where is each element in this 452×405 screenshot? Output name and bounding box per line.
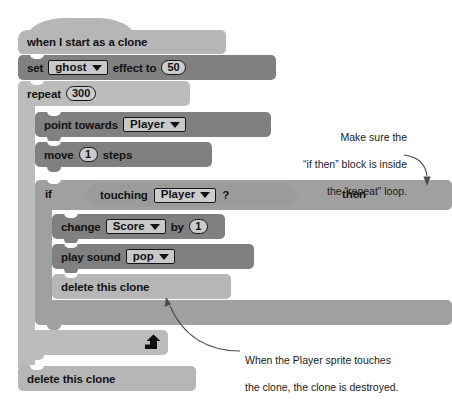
block-if-then-bottom[interactable] <box>35 300 452 325</box>
touching-target-dropdown[interactable]: Player <box>154 188 217 203</box>
play-sound-label: play sound <box>61 251 121 263</box>
block-notch <box>64 213 78 218</box>
chevron-down-icon <box>170 122 180 128</box>
block-bump <box>30 355 44 360</box>
block-set-effect[interactable]: set ghost effect to 50 <box>18 55 276 80</box>
point-towards-target-value: Player <box>130 119 165 131</box>
effect-dropdown[interactable]: ghost <box>48 60 107 75</box>
question-mark-label: ? <box>222 189 229 201</box>
block-notch <box>47 179 61 184</box>
chevron-down-icon <box>159 254 169 260</box>
block-notch <box>47 111 61 116</box>
touching-target-value: Player <box>161 189 196 201</box>
point-towards-target-dropdown[interactable]: Player <box>123 117 186 132</box>
by-label: by <box>171 221 184 233</box>
variable-dropdown-value: Score <box>113 221 145 233</box>
block-point-towards[interactable]: point towards Player <box>35 112 271 137</box>
point-towards-label: point towards <box>44 119 118 131</box>
block-notch <box>64 273 78 278</box>
annotation-line: “if then” block is inside <box>272 158 407 172</box>
block-bump <box>47 167 61 172</box>
repeat-count-field[interactable]: 300 <box>66 86 96 101</box>
change-amount-field[interactable]: 1 <box>189 219 208 234</box>
effect-to-label: effect to <box>113 62 157 74</box>
block-delete-this-clone-inner[interactable]: delete this clone <box>52 274 231 299</box>
block-notch <box>30 54 44 59</box>
change-amount-value: 1 <box>195 221 201 232</box>
annotation-line: Make sure the <box>272 131 407 145</box>
block-delete-this-clone-outer[interactable]: delete this clone <box>18 366 196 391</box>
sound-dropdown-value: pop <box>133 251 154 263</box>
block-notch <box>64 243 78 248</box>
boolean-touching-player[interactable]: touching Player ? <box>84 183 299 207</box>
touching-label: touching <box>100 189 148 201</box>
block-when-i-start-as-a-clone[interactable]: when I start as a clone <box>18 30 226 54</box>
steps-label: steps <box>103 149 133 161</box>
block-repeat-top[interactable]: repeat 300 <box>18 81 190 106</box>
move-steps-field[interactable]: 1 <box>79 147 98 162</box>
repeat-label: repeat <box>27 88 61 100</box>
block-notch <box>47 141 61 146</box>
move-steps-value: 1 <box>85 149 91 160</box>
repeat-count-value: 300 <box>72 88 90 99</box>
chevron-down-icon <box>92 65 102 71</box>
annotation-if-inside-repeat: Make sure the “if then” block is inside … <box>272 117 407 212</box>
repeat-left-spine <box>18 100 35 368</box>
chevron-down-icon <box>150 224 160 230</box>
effect-dropdown-value: ghost <box>55 62 86 74</box>
loop-arrow-icon <box>142 334 162 352</box>
block-notch <box>30 80 44 85</box>
annotation-line: the “repeat” loop. <box>272 185 407 199</box>
block-label: when I start as a clone <box>27 36 147 48</box>
effect-value-field[interactable]: 50 <box>161 60 185 75</box>
effect-value: 50 <box>167 62 179 73</box>
variable-dropdown[interactable]: Score <box>106 219 166 234</box>
change-label: change <box>61 221 101 233</box>
chevron-down-icon <box>200 192 210 198</box>
if-label: if <box>45 188 52 200</box>
delete-clone-label: delete this clone <box>27 373 115 385</box>
delete-clone-label: delete this clone <box>61 281 149 293</box>
sound-dropdown[interactable]: pop <box>126 249 175 264</box>
move-label: move <box>44 149 74 161</box>
block-move-steps[interactable]: move 1 steps <box>35 142 212 167</box>
block-notch <box>30 365 44 370</box>
annotation-line: When the Player sprite touches <box>245 354 445 368</box>
set-label: set <box>27 62 43 74</box>
block-play-sound[interactable]: play sound pop <box>52 244 254 269</box>
block-change-variable[interactable]: change Score by 1 <box>52 214 225 239</box>
scratch-script-canvas: when I start as a clone set ghost effect… <box>0 0 452 405</box>
annotation-line: the clone, the clone is destroyed. <box>245 381 445 395</box>
annotation-clone-destroyed: When the Player sprite touches the clone… <box>245 340 445 405</box>
if-left-spine <box>35 205 52 310</box>
